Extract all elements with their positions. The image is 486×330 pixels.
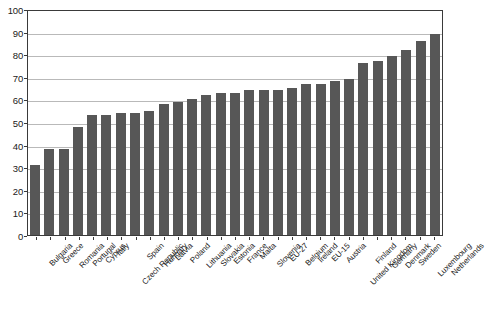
bar — [416, 41, 426, 235]
x-tick-mark — [178, 237, 179, 240]
x-tick-mark — [405, 237, 406, 240]
x-tick-mark — [50, 237, 51, 240]
bar — [358, 63, 368, 235]
y-tick-label: 50 — [13, 118, 23, 129]
bar — [344, 79, 354, 235]
bar — [73, 127, 83, 235]
bar — [30, 165, 40, 235]
y-tick-label: 90 — [13, 27, 23, 38]
y-tick-label: 60 — [13, 95, 23, 106]
y-tick-label: 10 — [13, 208, 23, 219]
bar — [44, 149, 54, 235]
x-tick-mark — [150, 237, 151, 240]
y-axis: 0102030405060708090100 — [0, 0, 27, 246]
x-tick-mark — [306, 237, 307, 240]
bar — [59, 149, 69, 235]
bar — [144, 111, 154, 235]
x-tick-mark — [377, 237, 378, 240]
x-tick-mark — [65, 237, 66, 240]
bar — [316, 84, 326, 235]
y-tick-label: 100 — [8, 5, 23, 16]
x-tick-mark — [221, 237, 222, 240]
bar — [401, 50, 411, 235]
bar — [259, 90, 269, 235]
bar — [159, 104, 169, 235]
x-tick-mark — [235, 237, 236, 240]
y-tick-label: 80 — [13, 50, 23, 61]
x-tick-mark — [121, 237, 122, 240]
y-tick-label: 70 — [13, 72, 23, 83]
x-tick-mark — [93, 237, 94, 240]
x-tick-mark — [391, 237, 392, 240]
bar — [244, 90, 254, 235]
x-tick-mark — [79, 237, 80, 240]
bar — [87, 115, 97, 235]
bar-series — [28, 11, 442, 235]
bar — [230, 93, 240, 235]
plot-area — [27, 10, 443, 236]
bar — [273, 90, 283, 235]
y-tick-label: 20 — [13, 185, 23, 196]
bar — [373, 61, 383, 235]
x-tick-mark — [249, 237, 250, 240]
x-tick-mark — [320, 237, 321, 240]
bar — [201, 95, 211, 235]
x-tick-mark — [420, 237, 421, 240]
x-tick-mark — [292, 237, 293, 240]
x-tick-mark — [278, 237, 279, 240]
x-tick-mark — [107, 237, 108, 240]
x-axis: BulgariaGreeceRomaniaPortugalCyprusItaly… — [27, 237, 443, 330]
bar — [330, 81, 340, 235]
x-tick-mark — [263, 237, 264, 240]
x-tick-mark — [192, 237, 193, 240]
x-tick-mark — [164, 237, 165, 240]
x-tick-mark — [434, 237, 435, 240]
bar — [173, 102, 183, 235]
bar — [287, 88, 297, 235]
bar — [301, 84, 311, 235]
x-tick-mark — [36, 237, 37, 240]
bar — [130, 113, 140, 235]
bar — [187, 99, 197, 235]
bar — [216, 93, 226, 235]
y-tick-label: 30 — [13, 163, 23, 174]
bar — [387, 56, 397, 235]
x-tick-mark — [136, 237, 137, 240]
y-tick-label: 40 — [13, 140, 23, 151]
y-tick-label: 0 — [18, 231, 23, 242]
x-tick-mark — [363, 237, 364, 240]
x-tick-mark — [334, 237, 335, 240]
bar — [101, 115, 111, 235]
bar — [430, 34, 440, 235]
x-tick-mark — [349, 237, 350, 240]
x-tick-mark — [207, 237, 208, 240]
bar — [116, 113, 126, 235]
